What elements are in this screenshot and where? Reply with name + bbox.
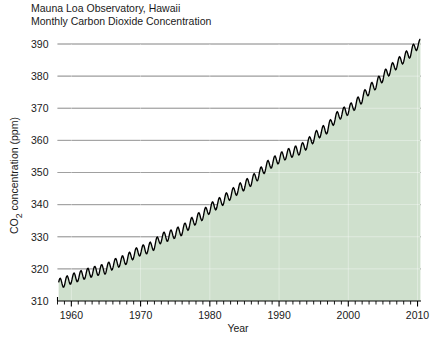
x-tick-label-2010: 2010 bbox=[406, 309, 430, 321]
y-tick-label-370: 370 bbox=[31, 102, 49, 114]
y-tick-label-310: 310 bbox=[31, 295, 49, 307]
y-tick-label-360: 360 bbox=[31, 134, 49, 146]
y-tick-label-320: 320 bbox=[31, 263, 49, 275]
y-tick-label-340: 340 bbox=[31, 198, 49, 210]
x-tick-label-1990: 1990 bbox=[267, 309, 291, 321]
x-tick-label-2000: 2000 bbox=[337, 309, 361, 321]
x-tick-label-1970: 1970 bbox=[129, 309, 153, 321]
data-fill bbox=[58, 40, 422, 301]
x-axis-ticks bbox=[58, 301, 418, 307]
x-tick-label-1960: 1960 bbox=[60, 309, 84, 321]
plot-area: 310320330340350360370380390 196019701980… bbox=[0, 0, 436, 344]
y-tick-label-330: 330 bbox=[31, 231, 49, 243]
y-tick-label-350: 350 bbox=[31, 166, 49, 178]
y-tick-labels: 310320330340350360370380390 bbox=[31, 38, 49, 307]
area-fill bbox=[59, 40, 421, 301]
y-tick-label-380: 380 bbox=[31, 70, 49, 82]
x-tick-label-1980: 1980 bbox=[198, 309, 222, 321]
co2-chart-figure: Mauna Loa Observatory, Hawaii Monthly Ca… bbox=[0, 0, 436, 344]
x-tick-labels: 196019701980199020002010 bbox=[60, 309, 430, 321]
y-tick-label-390: 390 bbox=[31, 38, 49, 50]
